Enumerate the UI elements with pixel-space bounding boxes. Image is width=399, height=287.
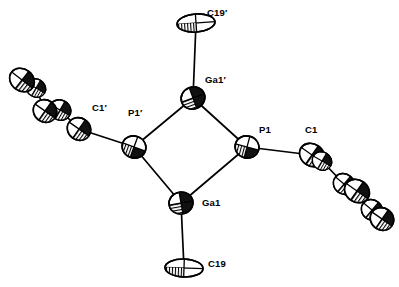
atom-label-C19: C19 [208, 259, 226, 269]
atom-layer [5, 13, 398, 278]
ring-atom-P1p [119, 133, 149, 162]
atom-label-C1p: C1′ [92, 103, 107, 113]
methyl-atom-C19 [165, 258, 204, 277]
ortep-structure-figure [0, 0, 399, 287]
atom-label-P1p: P1′ [128, 108, 143, 118]
ring-bond-P1-Ga1 [181, 147, 247, 203]
bond-layer [22, 23, 382, 268]
atom-label-P1: P1 [259, 125, 271, 135]
atom-label-Ga1p: Ga1′ [205, 75, 226, 85]
atom-label-Ga1: Ga1 [202, 198, 221, 208]
atom-label-C1: C1 [305, 125, 318, 135]
atom-label-C19p: C19′ [207, 8, 228, 18]
